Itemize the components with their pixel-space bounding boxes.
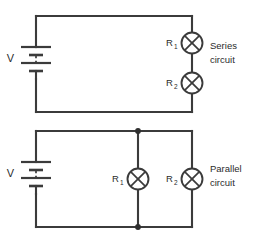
series-battery-icon	[21, 47, 51, 79]
parallel-junction-dot-bottom	[135, 224, 141, 230]
series-circuit-group: V R 1 R 2 Series circuit	[0, 0, 261, 249]
parallel-lamp-1-label: R	[112, 173, 119, 184]
series-lamp-2-label: R	[166, 77, 173, 88]
series-voltage-label: V	[7, 52, 15, 64]
series-lamp-1-icon	[182, 33, 203, 54]
parallel-lamp-1-icon	[128, 169, 149, 190]
series-caption-line-2: circuit	[210, 54, 235, 65]
parallel-lamp-2-subscript: 2	[174, 179, 178, 186]
parallel-caption-line-1: Parallel	[210, 163, 242, 174]
parallel-caption-line-2: circuit	[210, 177, 235, 188]
series-caption-line-1: Series	[210, 40, 237, 51]
parallel-battery-icon	[21, 162, 51, 194]
parallel-junction-dot-top	[135, 128, 141, 134]
parallel-lamp-1-subscript: 1	[120, 179, 124, 186]
series-lamp-1-subscript: 1	[174, 43, 178, 50]
parallel-lamp-2-icon	[182, 169, 203, 190]
circuit-diagram-figure: V R 1 R 2 Series circuit	[0, 0, 261, 249]
parallel-lamp-2-label: R	[166, 173, 173, 184]
series-lamp-1-label: R	[166, 37, 173, 48]
series-circuit-wires	[36, 16, 192, 112]
series-lamp-2-subscript: 2	[174, 83, 178, 90]
series-lamp-2-icon	[182, 73, 203, 94]
parallel-voltage-label: V	[7, 167, 15, 179]
